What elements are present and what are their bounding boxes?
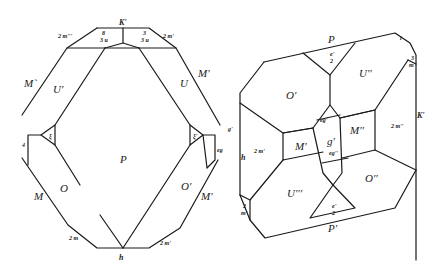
edge-label-top-inner-left-1: 8 <box>102 30 105 36</box>
face-label-U-bottom-left: U''' <box>287 187 303 199</box>
face-label-xi-left: ξ <box>49 133 52 141</box>
outline-top-left <box>22 28 97 115</box>
vertex-label-K: K' <box>416 111 425 120</box>
vertex-label-K: K' <box>118 18 127 27</box>
face-label-left-small-1: 2 <box>242 203 246 209</box>
face-label-tiny-left: 4 <box>21 142 25 148</box>
face-label-tiny-right-2: eg <box>217 147 223 153</box>
face-label-e-bottom-1: e' <box>332 203 337 209</box>
face-label-right-small-1: 3 <box>410 55 414 61</box>
face-label-U-top-right: U'' <box>359 67 372 79</box>
face-label-g-center: g' <box>327 135 336 147</box>
face-label-P-top: P <box>327 33 335 45</box>
vertex-label-h: h <box>119 253 124 262</box>
face-label-O-left: O <box>60 182 68 194</box>
face-label-m-right: 2 m'' <box>390 123 404 129</box>
u-lower-left-edge <box>240 160 283 200</box>
face-label-M-lower-right: M' <box>200 190 213 202</box>
o-lower-right-edge <box>375 150 416 170</box>
face-label-P-bottom: P' <box>327 222 338 234</box>
face-label-e-top-2: 2 <box>329 58 333 64</box>
o-left-lower-edge <box>240 103 313 133</box>
crystal-diagram: P U' U M` M' M M' O O' K' h 2 m''' 2 m' … <box>0 0 440 269</box>
face-label-left-small-2: m' <box>241 210 248 216</box>
face-label-eg-lower: eg'' <box>329 150 338 156</box>
left-tiny-face <box>28 135 41 165</box>
face-label-m-left: 2 m' <box>253 148 265 154</box>
u-right-lower-edge <box>340 60 408 118</box>
face-label-O-right: O' <box>181 180 192 192</box>
edge-label-top-inner-left-2: 3 u <box>99 37 109 43</box>
face-label-O-bottom-right: O'' <box>365 172 378 184</box>
edge-label-top-inner-right-1: 3 <box>142 30 146 36</box>
face-label-O-top-left: O' <box>286 89 297 101</box>
face-label-P: P <box>119 153 127 165</box>
face-label-eg-upper: eg' <box>320 117 328 123</box>
left-xi-face <box>41 125 55 145</box>
edge-label-bottom-left: 2 m <box>68 235 79 241</box>
face-label-e-bottom-2: 2 <box>331 210 335 216</box>
face-label-e-top-1: e' <box>330 51 335 57</box>
top-k-edge-right <box>123 43 139 48</box>
face-label-U-right: U <box>180 77 189 89</box>
edge-label-top-right: 2 m' <box>162 33 174 39</box>
face-label-right-small-2: m <box>409 62 414 68</box>
face-label-M-lower-left: M <box>33 190 44 202</box>
left-crystal-labels: P U' U M` M' M M' O O' K' h 2 m''' 2 m' … <box>21 18 233 262</box>
outline-top-right <box>264 33 416 260</box>
right-tiny-face <box>203 135 215 168</box>
outline-left <box>240 62 264 195</box>
outline-bottom <box>22 158 218 248</box>
edge-label-bottom-right: 2 m' <box>159 240 171 246</box>
o-left-inner <box>55 145 80 185</box>
face-label-M-upper-left: M` <box>23 77 37 89</box>
edge-label-top-inner-right-2: 3 u <box>140 37 150 43</box>
face-label-M-upper-right: M' <box>197 67 210 79</box>
face-label-tiny-right: g' <box>227 126 233 132</box>
eg-lower-edge <box>322 158 348 163</box>
o-left-lower-inner <box>100 215 123 248</box>
vertex-label-h: h <box>241 153 246 162</box>
o-right-inner <box>123 145 190 248</box>
face-label-M-center-right: M'' <box>349 124 365 136</box>
face-label-M-center-left: M' <box>294 140 307 152</box>
edge-label-top-left: 2 m''' <box>57 33 73 39</box>
face-label-U-left: U' <box>53 83 64 95</box>
